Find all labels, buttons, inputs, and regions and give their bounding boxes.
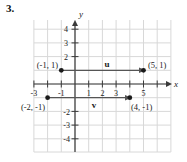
- y-tick-label-3: 3: [64, 39, 68, 48]
- y-tick-label--3: -3: [63, 121, 70, 130]
- x-tick-label--3: -3: [31, 89, 38, 98]
- y-tick-label-4: 4: [64, 25, 68, 34]
- axes: [34, 20, 172, 152]
- point-label-v-start: (-2, -1): [21, 102, 45, 112]
- vector-figure: 3.: [0, 0, 187, 162]
- y-tick-label--2: -2: [63, 108, 70, 117]
- point-label-u-start: (-1, 1): [37, 60, 58, 70]
- vector-u-label: u: [104, 59, 109, 69]
- x-axis-label: x: [173, 79, 178, 89]
- x-tick-label-5: 5: [142, 89, 146, 98]
- x-tick-label-3: 3: [114, 89, 118, 98]
- y-axis-label: y: [78, 9, 83, 19]
- point-dot-v-start: [45, 95, 50, 100]
- point-label-u-end: (5, 1): [148, 60, 167, 70]
- y-axis-arrow-icon: [72, 20, 78, 26]
- point-dot-u-start: [59, 68, 64, 73]
- y-tick-label-2: 2: [64, 53, 68, 62]
- vector-v-label: v: [92, 100, 97, 110]
- point-dot-v-end: [127, 95, 132, 100]
- coordinate-plane: x y -3 -1 1 2 3 5 4 3 2 -2 -3 -4 u: [0, 0, 187, 162]
- x-tick-label--1: -1: [58, 89, 65, 98]
- y-tick-label--4: -4: [63, 135, 70, 144]
- point-dot-u-end: [141, 68, 146, 73]
- x-tick-label-2: 2: [100, 89, 104, 98]
- point-label-v-end: (4, -1): [131, 102, 152, 112]
- x-tick-label-1: 1: [87, 89, 91, 98]
